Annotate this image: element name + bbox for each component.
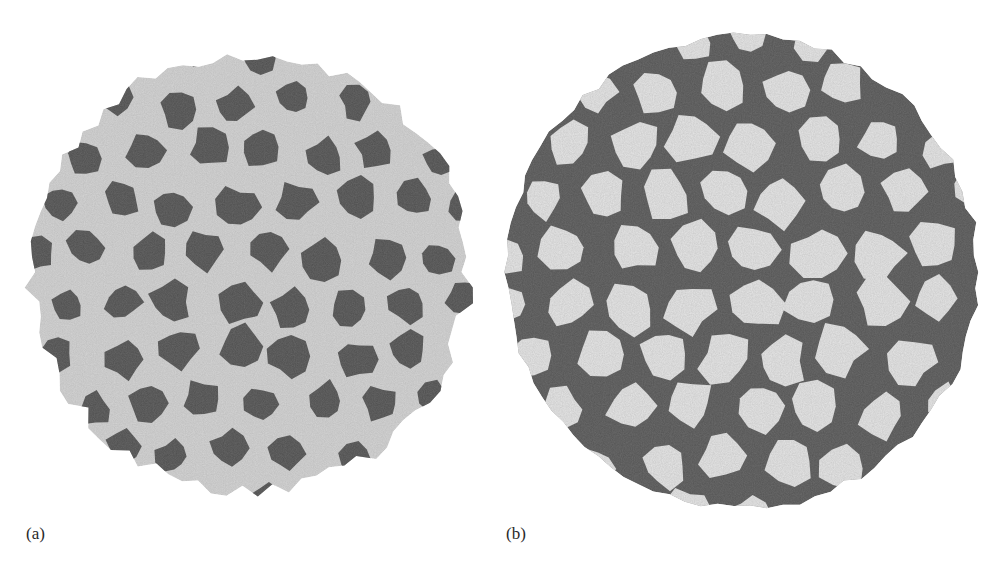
capsid-a-image <box>0 0 500 510</box>
panel-a-label: (a) <box>26 524 45 544</box>
panel-b-label: (b) <box>506 524 526 544</box>
capsid-b-image <box>498 0 998 520</box>
panel-b <box>498 0 998 520</box>
panel-a <box>0 0 500 510</box>
